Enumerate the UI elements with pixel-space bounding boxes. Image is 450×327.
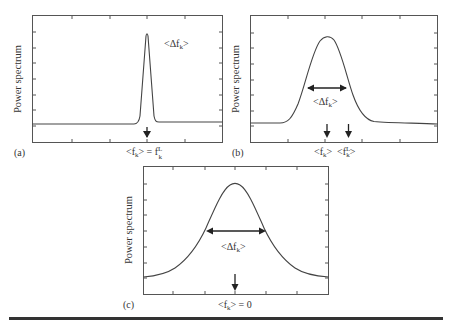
panel-b: <Δfk> <fk> <fLk> (b) Power spectrum: [230, 16, 438, 160]
panel-a-down-arrow: [143, 127, 151, 138]
panel-c-width-arrow: [206, 228, 266, 235]
panel-b-width-arrow: [307, 85, 347, 92]
panel-b-down-arrow-local: [345, 124, 352, 138]
panel-a-ylabel: Power spectrum: [12, 45, 23, 113]
panel-c-width-annotation: <Δfk>: [221, 241, 246, 254]
panel-a-width-annotation: <Δfk>: [164, 38, 189, 51]
panel-c: <Δfk> <fk> = 0 (c) Power spectrum: [123, 167, 329, 313]
panel-a-xlabel: <fk> = fLk: [126, 145, 162, 161]
panel-a: <Δfk> <fk> = fLk (a) Power spectrum: [12, 16, 223, 162]
panel-b-spectrum-curve: [251, 37, 438, 124]
panel-b-width-annotation: <Δfk>: [313, 96, 338, 109]
panel-b-down-arrow-mean: [324, 124, 331, 138]
panel-c-ylabel: Power spectrum: [123, 196, 134, 264]
panel-b-ylabel: Power spectrum: [230, 45, 241, 113]
panel-c-label: (c): [123, 299, 134, 311]
panel-a-label: (a): [14, 147, 25, 159]
panel-c-down-arrow: [232, 274, 239, 291]
figure: <Δfk> <fk> = fLk (a) Power spectrum: [0, 0, 450, 327]
panel-b-xlabel-mean: <fk>: [314, 146, 332, 159]
panel-b-xlabel-local: <fLk>: [337, 145, 356, 159]
panel-c-xlabel: <fk> = 0: [218, 299, 252, 312]
panel-a-spectrum-curve: [33, 34, 223, 124]
panel-c-spectrum-curve: [144, 184, 329, 278]
panel-b-label: (b): [232, 147, 244, 159]
bottom-rule: [9, 317, 443, 320]
